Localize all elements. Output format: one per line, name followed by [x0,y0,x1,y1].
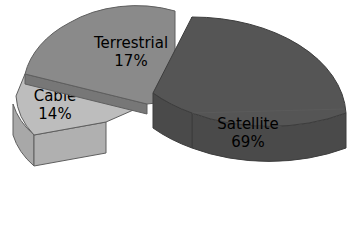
pie-chart-svg: Cable 14% Terrestrial 17% Satellite 69% [0,0,359,250]
pie-slice-satellite-value: 69% [231,133,264,151]
pie-slice-terrestrial-label: Terrestrial [93,34,168,52]
pie-chart-figure: Cable 14% Terrestrial 17% Satellite 69% [0,0,359,250]
pie-slice-satellite-label: Satellite [217,115,278,133]
pie-slice-terrestrial-value: 17% [114,52,147,70]
pie-slice-cable-value: 14% [38,105,71,123]
